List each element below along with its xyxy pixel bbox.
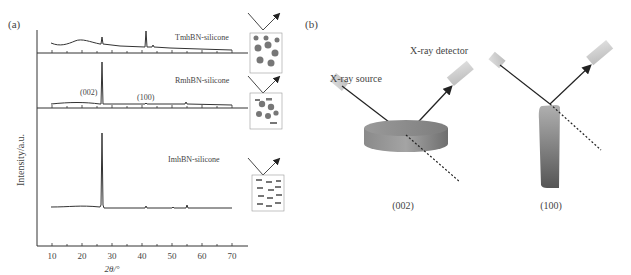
xtick-60: 60 bbox=[198, 251, 208, 261]
xray-detector-label: X-ray detector bbox=[410, 45, 469, 56]
y-axis-label: Intensity/a.u. bbox=[15, 134, 26, 186]
xray-source-label: X-ray source bbox=[330, 73, 382, 84]
xtick-20: 20 bbox=[78, 251, 88, 261]
orientation-002-label: (002) bbox=[392, 200, 414, 212]
xray-detector-device-icon bbox=[447, 61, 474, 86]
annotation-100: (100) bbox=[137, 93, 155, 102]
xtick-70: 70 bbox=[228, 251, 238, 261]
label-rmhbn: RmhBN-silicone bbox=[175, 76, 230, 85]
label-imhbn: ImhBN-silicone bbox=[168, 155, 220, 164]
panel-b-label: (b) bbox=[305, 18, 318, 31]
orientation-100-label: (100) bbox=[540, 200, 562, 212]
label-tmhbn: TmhBN-silicone bbox=[175, 33, 229, 42]
xtick-10: 10 bbox=[48, 251, 58, 261]
x-axis-label: 2θ/° bbox=[104, 264, 119, 274]
diagram-100 bbox=[488, 40, 613, 188]
xrd-plots bbox=[37, 30, 248, 246]
xtick-30: 30 bbox=[108, 251, 118, 261]
annotation-002: (002) bbox=[80, 88, 98, 97]
xray-detector-device-icon bbox=[586, 40, 613, 65]
xtick-50: 50 bbox=[168, 251, 178, 261]
schematic-imhbn bbox=[248, 158, 284, 211]
panel-a-label: (a) bbox=[8, 18, 21, 31]
schematic-tmhbn bbox=[248, 13, 282, 73]
schematic-rmhbn bbox=[248, 76, 282, 129]
xrd-figure: (a) Intensity/a.u. bbox=[0, 0, 631, 275]
xray-source-device-icon bbox=[488, 52, 505, 69]
xtick-40: 40 bbox=[138, 251, 148, 261]
series-imhbn bbox=[51, 133, 232, 208]
